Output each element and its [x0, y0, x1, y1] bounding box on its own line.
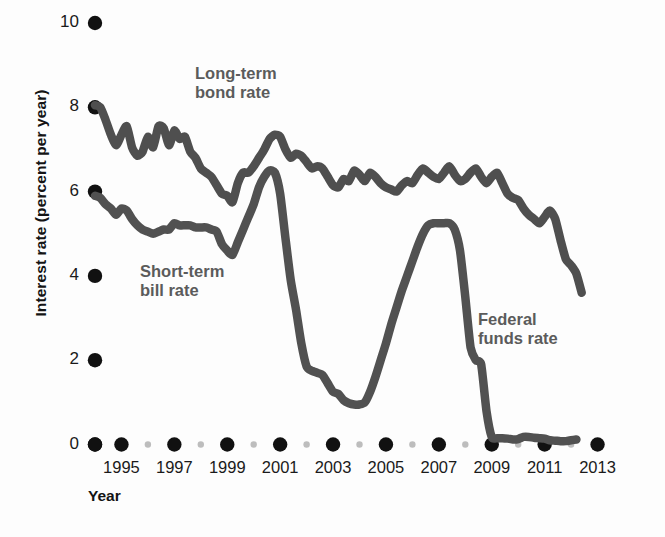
x-axis-tick-dot: [379, 437, 393, 451]
x-tick-label: 2003: [305, 458, 361, 477]
x-axis-tick-dot: [220, 437, 234, 451]
y-tick-label: 0: [49, 434, 79, 454]
y-tick-label: 10: [49, 12, 79, 32]
line-chart-plot: [0, 0, 665, 537]
chart-container: Interest rate (percent per year) Year 02…: [0, 0, 665, 537]
x-tick-label: 2009: [464, 458, 520, 477]
annotation-long-term-bond-rate: Long-term bond rate: [195, 64, 277, 102]
x-tick-label: 2007: [411, 458, 467, 477]
x-tick-label: 2013: [570, 458, 626, 477]
x-tick-label: 2011: [517, 458, 573, 477]
x-axis-tick-dot: [114, 437, 128, 451]
annotation-federal-funds-rate: Federal funds rate: [478, 310, 558, 348]
x-tick-label: 1997: [146, 458, 202, 477]
y-axis-tick-dot: [88, 269, 102, 283]
y-axis-tick-dot: [88, 16, 102, 30]
x-axis-tick-dot: [356, 441, 362, 447]
x-axis-tick-dot: [198, 441, 204, 447]
y-tick-label: 8: [49, 96, 79, 116]
x-axis-title: Year: [88, 487, 121, 505]
x-axis-tick-dot: [251, 441, 257, 447]
y-tick-label: 6: [49, 181, 79, 201]
x-tick-label: 1999: [199, 458, 255, 477]
x-tick-label: 1995: [93, 458, 149, 477]
y-axis-title-text: Interest rate (percent per year): [32, 89, 50, 316]
x-tick-label: 2001: [252, 458, 308, 477]
y-tick-label: 2: [49, 349, 79, 369]
x-axis-tick-dot: [145, 441, 151, 447]
x-axis-tick-dot: [273, 437, 287, 451]
x-axis-tick-dot: [462, 441, 468, 447]
y-tick-label: 4: [49, 265, 79, 285]
x-tick-label: 2005: [358, 458, 414, 477]
chart-line-series-2: [95, 170, 576, 441]
annotation-short-term-bill-rate: Short-term bill rate: [140, 262, 224, 300]
x-axis-tick-dot: [409, 441, 415, 447]
x-axis-tick-dot: [303, 441, 309, 447]
x-axis-tick-dot: [167, 437, 181, 451]
y-axis-tick-dot: [88, 437, 102, 451]
x-axis-tick-dot: [432, 437, 446, 451]
x-axis-tick-dot: [326, 437, 340, 451]
x-axis-tick-dot: [590, 437, 604, 451]
y-axis-tick-dot: [88, 353, 102, 367]
